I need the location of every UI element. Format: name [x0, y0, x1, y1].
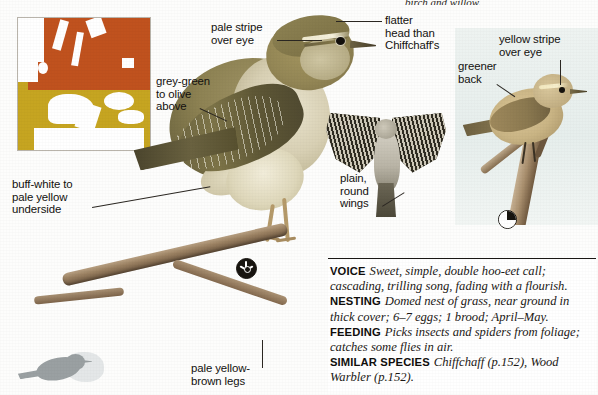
flying-bird-head	[375, 119, 397, 139]
bird-eye	[336, 37, 345, 45]
size-silhouette	[18, 352, 104, 386]
info-row-feeding: FEEDINGPicks insects and spiders from fo…	[328, 325, 596, 355]
annotation-pale-yellow-brown-legs: pale yellow- brown legs	[191, 362, 277, 387]
info-row-voice: VOICESweet, simple, double hoo-eet call;…	[328, 264, 596, 294]
map-coast-cut	[38, 62, 48, 74]
info-row-nesting: NESTINGDomed nest of grass, near ground …	[328, 294, 596, 324]
quarter-pie-icon	[498, 210, 517, 229]
map-black-sea-cut	[104, 92, 134, 110]
quarter-pie-fill	[499, 211, 516, 228]
map-coast-cut	[118, 110, 144, 124]
annotation-yellow-stripe-over-eye: yellow stripe over eye	[499, 33, 589, 58]
info-heading-similar-species: SIMILAR SPECIES	[330, 356, 430, 368]
inset-bird-leg	[521, 142, 526, 164]
inset-bird-eye	[559, 87, 565, 93]
top-caption-fragment: birch and willow.	[405, 0, 595, 5]
annotation-buff-white-underside: buff-white to pale yellow underside	[12, 178, 108, 216]
species-info-box: VOICESweet, simple, double hoo-eet call;…	[328, 258, 596, 392]
inset-bird-bill	[570, 89, 587, 94]
annotation-flatter-head: flatter head than Chiffchaff's	[385, 14, 465, 52]
info-row-similar-species: SIMILAR SPECIESChiffchaff (p.152), Wood …	[328, 355, 596, 385]
inset-bird-leg	[532, 142, 536, 162]
annotation-pale-stripe-over-eye: pale stripe over eye	[211, 21, 289, 46]
leader-line-flatter-head	[336, 21, 382, 22]
leader-line-legs	[262, 340, 263, 368]
map-coast-cut	[122, 58, 134, 68]
leader-line-yellow-stripe	[560, 60, 561, 85]
info-heading-voice: VOICE	[330, 265, 366, 277]
info-heading-nesting: NESTING	[330, 295, 381, 307]
map-south-sea-cut	[34, 128, 144, 150]
flying-bird-right-wing	[392, 113, 446, 175]
flying-bird-left-wing	[326, 113, 380, 175]
annotation-greener-back: greener back	[458, 60, 518, 85]
sun-disc-hub	[244, 266, 251, 273]
sun-disc-icon	[236, 258, 257, 279]
distribution-map	[17, 17, 151, 151]
info-heading-feeding: FEEDING	[330, 326, 381, 338]
map-coast-cut	[18, 48, 38, 82]
leader-line-pale-stripe	[277, 40, 322, 41]
annotation-grey-green-to-olive-above: grey-green to olive above	[156, 75, 232, 113]
field-guide-page: birch and willow.	[0, 0, 598, 395]
perch-branch-twig	[34, 287, 124, 304]
